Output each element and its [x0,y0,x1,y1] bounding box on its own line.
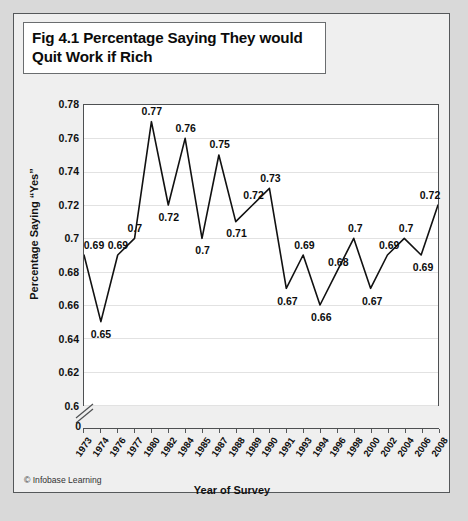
data-point-label: 0.69 [379,239,399,251]
data-point-label: 0.68 [328,256,348,268]
x-axis-tick-mark [100,429,101,433]
data-point-label: 0.72 [159,211,179,223]
x-axis-tick-mark [236,429,237,433]
data-point-label: 0.7 [128,222,143,234]
data-point-label: 0.75 [209,138,229,150]
x-axis-tick-mark [253,429,254,433]
y-axis-title-text: Percentage Saying “Yes” [28,168,40,299]
y-axis-tick: 0.76 [59,132,79,144]
x-axis-tick-mark [439,429,440,433]
figure-title-box: Fig 4.1 Percentage Saying They would Qui… [23,22,326,74]
x-axis-line [83,428,439,429]
y-axis-tick: 0.72 [59,199,79,211]
y-axis-tick: 0.7 [64,232,79,244]
gridline [84,405,438,406]
x-axis-tick-mark [388,429,389,433]
data-point-label: 0.72 [243,189,263,201]
x-axis-tick-mark [219,429,220,433]
data-point-label: 0.7 [348,222,363,234]
data-point-label: 0.71 [226,227,246,239]
x-axis-tick-mark [168,429,169,433]
x-axis-tick-mark [269,429,270,433]
line-series [84,105,438,405]
copyright-credit: © Infobase Learning [24,475,102,485]
x-axis-tick-mark [320,429,321,433]
data-point-label: 0.7 [399,222,414,234]
x-axis-tick-mark [337,429,338,433]
x-axis-tick-mark [117,429,118,433]
y-axis-zero-label: 0 [45,420,81,432]
y-axis-tick: 0.64 [59,333,79,345]
data-point-label: 0.77 [142,105,162,117]
data-point-label: 0.66 [311,311,331,323]
y-axis-tick-labels: 0.780.760.740.720.70.680.660.640.620.6 [45,104,81,414]
data-point-label: 0.69 [294,239,314,251]
data-point-label: 0.69 [413,261,433,273]
x-axis-tick-mark [134,429,135,433]
x-axis-title: Year of Survey [23,484,441,496]
plot-area: 0.690.650.690.70.770.720.760.70.750.710.… [83,104,439,406]
data-point-label: 0.72 [420,189,440,201]
x-axis-tick-mark [286,429,287,433]
x-axis-tick-mark [185,429,186,433]
x-axis-tick-mark [303,429,304,433]
y-axis-tick: 0.62 [59,366,79,378]
x-axis-tick-mark [202,429,203,433]
x-axis-tick-mark [354,429,355,433]
chart-container: Percentage Saying “Yes” 0.780.760.740.72… [23,84,441,456]
data-point-label: 0.73 [260,172,280,184]
y-axis-tick: 0.74 [59,165,79,177]
data-point-label: 0.67 [362,295,382,307]
data-point-label: 0.69 [84,239,104,251]
y-axis-tick: 0.66 [59,299,79,311]
data-point-label: 0.7 [195,244,210,256]
x-axis-tick-mark [151,429,152,433]
x-axis-tick-mark [405,429,406,433]
y-axis-title: Percentage Saying “Yes” [21,84,47,384]
data-point-label: 0.69 [108,239,128,251]
data-point-label: 0.76 [175,122,195,134]
data-point-label: 0.67 [277,295,297,307]
data-point-label: 0.65 [91,328,111,340]
page-title: Fig 4.1 Percentage Saying They would Qui… [24,29,325,66]
y-axis-tick: 0.68 [59,266,79,278]
figure-card: Fig 4.1 Percentage Saying They would Qui… [13,13,450,493]
x-axis-tick-mark [371,429,372,433]
x-axis-tick-mark [422,429,423,433]
y-axis-tick: 0.78 [59,98,79,110]
x-axis-tick-mark [83,429,84,433]
